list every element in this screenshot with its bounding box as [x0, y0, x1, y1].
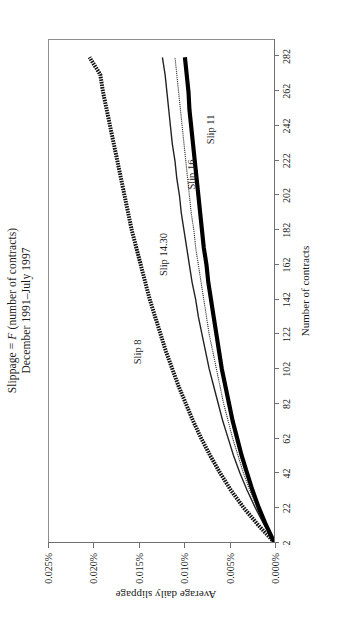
x-tick-label: 162	[281, 257, 292, 272]
x-tick	[274, 264, 279, 265]
series-label: Slip 8	[131, 339, 142, 364]
y-tick	[230, 543, 231, 548]
x-tick	[274, 507, 279, 508]
x-tick	[274, 55, 279, 56]
y-tick-label: 0.005%	[224, 553, 235, 621]
x-tick	[274, 472, 279, 473]
x-tick-label: 102	[281, 362, 292, 377]
x-tick	[274, 125, 279, 126]
x-tick	[274, 160, 279, 161]
x-tick-label: 142	[281, 292, 292, 307]
y-tick-label: 0.025%	[43, 553, 54, 621]
y-axis-title: Average daily slippage	[86, 589, 246, 601]
x-tick-label: 42	[281, 468, 292, 478]
x-tick-label: 22	[281, 503, 292, 513]
x-axis-line	[274, 39, 275, 543]
x-tick	[274, 368, 279, 369]
plot-area	[48, 39, 275, 543]
y-tick-label: 0.000%	[270, 553, 281, 621]
x-tick-label: 282	[281, 49, 292, 64]
x-tick	[274, 438, 279, 439]
x-tick	[274, 229, 279, 230]
y-tick	[93, 543, 94, 548]
x-axis-title: Number of contracts	[299, 39, 311, 543]
x-tick	[274, 333, 279, 334]
x-tick-label: 122	[281, 327, 292, 342]
series-lines	[49, 40, 274, 542]
x-tick	[274, 299, 279, 300]
chart-title-prefix: Slippage =	[6, 340, 18, 394]
chart: Slippage = F (number of contracts) Decem…	[0, 0, 355, 621]
rotated-figure-container: Slippage = F (number of contracts) Decem…	[0, 0, 355, 621]
series-line	[185, 57, 274, 542]
x-tick	[274, 194, 279, 195]
chart-title-suffix: (number of contracts)	[6, 228, 18, 333]
y-tick-label: 0.020%	[88, 553, 99, 621]
series-label: Slip 14.30	[158, 233, 169, 276]
x-tick-label: 182	[281, 223, 292, 238]
x-tick-label: 202	[281, 188, 292, 203]
x-tick	[274, 542, 279, 543]
chart-title-italic-f: F	[6, 333, 18, 340]
chart-title-line1: Slippage = F (number of contracts)	[6, 0, 20, 621]
y-tick	[139, 543, 140, 548]
series-label: Slip 11	[204, 115, 215, 145]
x-tick-label: 2	[281, 541, 292, 546]
x-tick-label: 62	[281, 434, 292, 444]
figure-page: Slippage = F (number of contracts) Decem…	[0, 0, 355, 621]
x-tick-label: 262	[281, 84, 292, 99]
y-tick	[48, 543, 49, 548]
y-tick	[184, 543, 185, 548]
x-tick	[274, 90, 279, 91]
x-tick	[274, 403, 279, 404]
chart-subtitle: December 1991–July 1997	[20, 0, 34, 621]
y-tick-label: 0.015%	[133, 553, 144, 621]
x-tick-label: 222	[281, 153, 292, 168]
x-tick-label: 242	[281, 118, 292, 133]
chart-title: Slippage = F (number of contracts) Decem…	[6, 0, 33, 621]
y-tick	[275, 543, 276, 548]
x-tick-label: 82	[281, 399, 292, 409]
y-axis-line	[48, 542, 275, 543]
y-tick-label: 0.010%	[179, 553, 190, 621]
series-label: Slip 16	[186, 160, 197, 190]
